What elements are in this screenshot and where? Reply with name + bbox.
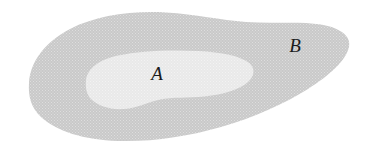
venn-diagram-canvas: A B bbox=[0, 0, 374, 159]
set-a-label: A bbox=[149, 63, 163, 84]
set-b-label: B bbox=[289, 35, 301, 56]
venn-diagram-figure: A B bbox=[0, 0, 374, 159]
